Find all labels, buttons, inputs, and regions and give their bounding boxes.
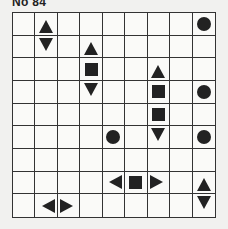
grid-cell-r2-c1[interactable] (35, 58, 57, 81)
grid-cell-r8-c8[interactable] (193, 194, 215, 217)
grid-cell-r3-c8[interactable] (193, 81, 215, 104)
grid-cell-r4-c7[interactable] (170, 104, 192, 127)
grid-cell-r8-c6[interactable] (148, 194, 170, 217)
grid-cell-r6-c1[interactable] (35, 149, 57, 172)
grid-cell-r6-c8[interactable] (193, 149, 215, 172)
grid-cell-r3-c7[interactable] (170, 81, 192, 104)
grid-cell-r8-c0[interactable] (13, 194, 35, 217)
grid-cell-r5-c2[interactable] (58, 126, 80, 149)
grid-cell-r8-c4[interactable] (103, 194, 125, 217)
grid-cell-r1-c3[interactable] (80, 36, 102, 59)
square-icon (152, 108, 165, 121)
grid-cell-r7-c7[interactable] (170, 172, 192, 195)
triangle-down-icon (39, 38, 53, 51)
grid-cell-r0-c7[interactable] (170, 13, 192, 36)
circle-icon (197, 85, 211, 99)
triangle-left-icon (109, 175, 122, 189)
grid-cell-r0-c0[interactable] (13, 13, 35, 36)
grid-cell-r6-c2[interactable] (58, 149, 80, 172)
grid-cell-r2-c4[interactable] (103, 58, 125, 81)
triangle-up-icon (197, 178, 211, 191)
grid-cell-r1-c8[interactable] (193, 36, 215, 59)
grid-cell-r5-c6[interactable] (148, 126, 170, 149)
circle-icon (106, 130, 120, 144)
grid-cell-r2-c8[interactable] (193, 58, 215, 81)
triangle-right-icon (150, 175, 163, 189)
grid-cell-r3-c1[interactable] (35, 81, 57, 104)
grid-cell-r6-c5[interactable] (125, 149, 147, 172)
grid-cell-r2-c5[interactable] (125, 58, 147, 81)
grid-cell-r7-c8[interactable] (193, 172, 215, 195)
triangle-left-icon (42, 199, 55, 213)
grid-cell-r1-c2[interactable] (58, 36, 80, 59)
grid-cell-r4-c6[interactable] (148, 104, 170, 127)
grid-cell-r5-c5[interactable] (125, 126, 147, 149)
grid-cell-r6-c3[interactable] (80, 149, 102, 172)
triangle-down-icon (84, 83, 98, 96)
grid-cell-r2-c0[interactable] (13, 58, 35, 81)
grid-cell-r3-c6[interactable] (148, 81, 170, 104)
grid-cell-r6-c7[interactable] (170, 149, 192, 172)
grid-cell-r1-c0[interactable] (13, 36, 35, 59)
grid-cell-r6-c4[interactable] (103, 149, 125, 172)
grid-cell-r5-c3[interactable] (80, 126, 102, 149)
grid-cell-r8-c5[interactable] (125, 194, 147, 217)
grid-cell-r1-c4[interactable] (103, 36, 125, 59)
grid-cell-r4-c5[interactable] (125, 104, 147, 127)
grid-cell-r7-c5[interactable] (125, 172, 147, 195)
grid-cell-r4-c2[interactable] (58, 104, 80, 127)
circle-icon (197, 130, 211, 144)
grid-cell-r0-c8[interactable] (193, 13, 215, 36)
puzzle-grid (12, 12, 216, 218)
square-icon (152, 85, 165, 98)
triangle-up-icon (151, 65, 165, 78)
grid-cell-r3-c2[interactable] (58, 81, 80, 104)
square-icon (85, 63, 98, 76)
grid-cell-r0-c4[interactable] (103, 13, 125, 36)
grid-cell-r7-c4[interactable] (103, 172, 125, 195)
grid-cell-r1-c1[interactable] (35, 36, 57, 59)
grid-cell-r3-c4[interactable] (103, 81, 125, 104)
grid-cell-r0-c1[interactable] (35, 13, 57, 36)
square-icon (129, 176, 142, 189)
grid-cell-r5-c8[interactable] (193, 126, 215, 149)
grid-cell-r5-c1[interactable] (35, 126, 57, 149)
grid-cell-r1-c7[interactable] (170, 36, 192, 59)
grid-cell-r4-c3[interactable] (80, 104, 102, 127)
grid-cell-r8-c2[interactable] (58, 194, 80, 217)
grid-cell-r7-c6[interactable] (148, 172, 170, 195)
puzzle-title: No 84 (12, 0, 46, 9)
triangle-up-icon (84, 42, 98, 55)
grid-cell-r0-c5[interactable] (125, 13, 147, 36)
grid-cell-r4-c4[interactable] (103, 104, 125, 127)
grid-cell-r0-c3[interactable] (80, 13, 102, 36)
grid-cell-r7-c3[interactable] (80, 172, 102, 195)
grid-cell-r5-c0[interactable] (13, 126, 35, 149)
grid-cell-r5-c7[interactable] (170, 126, 192, 149)
grid-cell-r4-c1[interactable] (35, 104, 57, 127)
triangle-down-icon (151, 128, 165, 141)
grid-cell-r4-c8[interactable] (193, 104, 215, 127)
grid-cell-r1-c5[interactable] (125, 36, 147, 59)
grid-cell-r7-c0[interactable] (13, 172, 35, 195)
grid-cell-r8-c3[interactable] (80, 194, 102, 217)
grid-cell-r3-c0[interactable] (13, 81, 35, 104)
grid-cell-r7-c1[interactable] (35, 172, 57, 195)
grid-cell-r6-c0[interactable] (13, 149, 35, 172)
grid-cell-r0-c6[interactable] (148, 13, 170, 36)
grid-cell-r7-c2[interactable] (58, 172, 80, 195)
grid-cell-r2-c7[interactable] (170, 58, 192, 81)
circle-icon (197, 17, 211, 31)
grid-cell-r1-c6[interactable] (148, 36, 170, 59)
grid-cell-r2-c2[interactable] (58, 58, 80, 81)
grid-cell-r2-c3[interactable] (80, 58, 102, 81)
grid-cell-r4-c0[interactable] (13, 104, 35, 127)
grid-cell-r8-c1[interactable] (35, 194, 57, 217)
grid-cell-r6-c6[interactable] (148, 149, 170, 172)
grid-cell-r0-c2[interactable] (58, 13, 80, 36)
grid-cell-r3-c3[interactable] (80, 81, 102, 104)
grid-cell-r3-c5[interactable] (125, 81, 147, 104)
grid-cell-r2-c6[interactable] (148, 58, 170, 81)
grid-cell-r5-c4[interactable] (103, 126, 125, 149)
grid-cell-r8-c7[interactable] (170, 194, 192, 217)
